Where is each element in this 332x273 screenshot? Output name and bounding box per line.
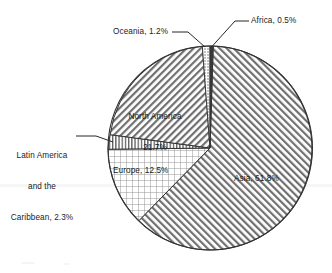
label-asia: Asia, 61.8% xyxy=(234,174,279,184)
label-latin-america-line2: and the xyxy=(6,182,78,192)
label-latin-america-line1: Latin America xyxy=(6,151,78,161)
label-africa: Africa, 0.5% xyxy=(251,16,296,26)
label-latin-america-line3: Caribbean, 2.3% xyxy=(6,213,78,223)
label-north-america-line2: 21.7% xyxy=(117,143,193,153)
leader-line-oceania xyxy=(172,32,205,47)
label-north-america: North America 21.7% xyxy=(117,91,193,174)
leader-line-africa xyxy=(212,21,250,47)
leader-line-latin-america xyxy=(76,136,113,142)
pie-chart-figure: Africa, 0.5% Oceania, 1.2% Latin America… xyxy=(0,0,332,273)
label-north-america-line1: North America xyxy=(117,112,193,122)
label-latin-america: Latin America and the Caribbean, 2.3% xyxy=(6,130,78,244)
label-europe: Europe, 12.5% xyxy=(113,166,168,176)
label-oceania: Oceania, 1.2% xyxy=(113,27,168,37)
